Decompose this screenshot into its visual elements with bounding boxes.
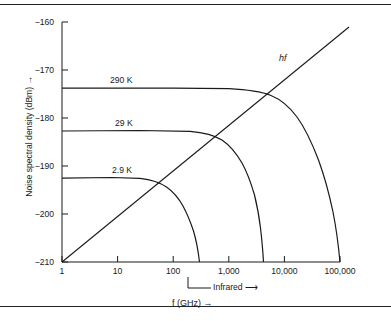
hf-line — [62, 27, 349, 262]
y-tick-marks — [62, 22, 68, 262]
xtick-label-1: 10 — [98, 267, 138, 276]
xtick-label-5: 100,000 — [314, 267, 366, 276]
curve-label-290k: 290 K — [110, 76, 132, 85]
ytick-label-0: −160 — [20, 18, 54, 27]
xtick-label-3: 1,000 — [207, 267, 251, 276]
infrared-label: Infrared ⟶ — [213, 283, 258, 292]
xtick-label-2: 100 — [153, 267, 193, 276]
xtick-label-0: 1 — [42, 267, 82, 276]
x-tick-marks — [62, 256, 340, 262]
curve-label-29k: 29 K — [115, 119, 133, 128]
curve-label-2p9k: 2.9 K — [112, 166, 132, 175]
x-axis-title: f (GHz) → — [172, 299, 213, 308]
xtick-label-4: 10,000 — [260, 267, 308, 276]
curve-label-hf: hf — [279, 54, 287, 63]
curve-29k — [62, 131, 264, 263]
y-axis-title: Noise spectral density (dBm) → — [25, 61, 34, 211]
ytick-label-5: −210 — [20, 258, 54, 267]
figure-container: −160 −170 −180 −190 −200 −210 1 10 100 1… — [0, 0, 391, 321]
curve-290k — [62, 88, 340, 262]
curve-2p9k — [62, 178, 200, 263]
